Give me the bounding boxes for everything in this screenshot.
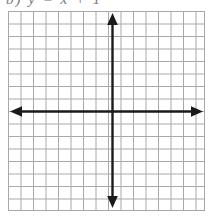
problem-label: b) y = x + 1 xyxy=(6,0,126,7)
coordinate-grid-worksheet: b) y = x + 1 xyxy=(0,0,213,217)
coordinate-plane-svg xyxy=(8,11,205,211)
coordinate-plane xyxy=(8,11,205,211)
